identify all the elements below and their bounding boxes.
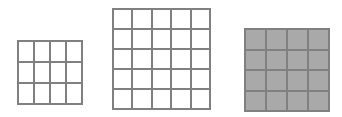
grid-cell — [153, 10, 170, 28]
grid-cell — [67, 63, 81, 82]
grid-cell — [192, 30, 209, 48]
grid-cell — [267, 92, 286, 111]
grid-cell — [172, 50, 189, 68]
grid-cell — [267, 71, 286, 90]
grid-figure — [0, 0, 342, 117]
grid-cell — [309, 92, 328, 111]
grid-cell — [67, 84, 81, 103]
grid-cell — [192, 70, 209, 88]
grid-cell — [267, 51, 286, 70]
grid-cell — [114, 50, 131, 68]
grid-cell — [246, 71, 265, 90]
grid-5x5 — [112, 8, 211, 110]
grid-cell — [309, 30, 328, 49]
grid-cell — [172, 90, 189, 108]
grid-cell — [153, 30, 170, 48]
grid-cell — [19, 42, 33, 61]
grid-cell — [35, 42, 49, 61]
grid-3x3 — [17, 40, 83, 105]
grid-cell — [35, 84, 49, 103]
grid-cell — [114, 70, 131, 88]
grid-cell — [19, 63, 33, 82]
grid-cell — [172, 10, 189, 28]
grid-cell — [51, 42, 65, 61]
grid-cell — [114, 10, 131, 28]
grid-cell — [133, 90, 150, 108]
grid-cell — [114, 30, 131, 48]
grid-cell — [192, 10, 209, 28]
grid-cell — [267, 30, 286, 49]
grid-cell — [288, 71, 307, 90]
grid-cell — [309, 71, 328, 90]
grid-cell — [309, 51, 328, 70]
grid-cell — [288, 51, 307, 70]
grid-cell — [133, 70, 150, 88]
grid-cell — [133, 50, 150, 68]
grid-cell — [192, 90, 209, 108]
grid-cell — [288, 30, 307, 49]
grid-cell — [246, 51, 265, 70]
grid-cell — [35, 63, 49, 82]
grid-cell — [192, 50, 209, 68]
grid-cell — [172, 30, 189, 48]
grid-cell — [246, 92, 265, 111]
grid-cell — [288, 92, 307, 111]
grid-cell — [133, 30, 150, 48]
grid-cell — [19, 84, 33, 103]
grid-cell — [114, 90, 131, 108]
grid-cell — [153, 90, 170, 108]
grid-4x4 — [244, 28, 330, 112]
grid-cell — [51, 63, 65, 82]
grid-cell — [246, 30, 265, 49]
grid-cell — [153, 50, 170, 68]
grid-cell — [67, 42, 81, 61]
grid-cell — [51, 84, 65, 103]
grid-cell — [133, 10, 150, 28]
grid-cell — [172, 70, 189, 88]
grid-cell — [153, 70, 170, 88]
